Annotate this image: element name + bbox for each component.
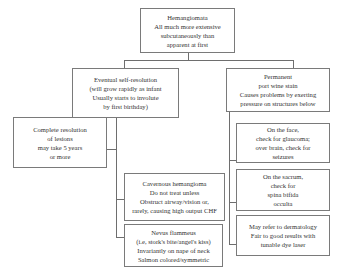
node-text: pressure on structures below [240, 99, 315, 108]
node-on-the-face: On the face, check for glaucoma; over br… [236, 123, 330, 163]
node-text: subcutaneously than [161, 31, 215, 40]
node-nevus-flammeus: Nevus flammeus (i.e, stork's bite/angel'… [124, 224, 223, 267]
node-text: Causes problems by exerting [240, 90, 316, 99]
connector-to-right-branch [293, 60, 294, 68]
node-refer-to-dermatology: May refer to dermatology Fair to good re… [236, 215, 330, 256]
node-text: Salmon colored/symmetric [138, 255, 209, 264]
node-text: by first birthday) [103, 102, 148, 111]
node-text: or more [50, 152, 71, 161]
node-text: apparent at first [167, 40, 208, 49]
node-hemangiomata: Hemangiomata All much more extensive sub… [140, 8, 235, 53]
node-on-the-sacrum: On the sacrum, check for spina bifida oc… [236, 169, 330, 211]
node-text: occulta [273, 199, 292, 208]
node-text: On the face, [267, 125, 299, 134]
node-text: Fair to good results with [251, 231, 315, 240]
node-text: spina bifida [268, 190, 299, 199]
connector-to-face [229, 160, 236, 161]
connector-to-nevus [116, 237, 124, 238]
node-text: (will grow rapidly as infant [89, 84, 161, 93]
node-text: May refer to dermatology [249, 222, 317, 231]
node-text: port wine stain [258, 81, 297, 90]
node-text: tunable dye laser [261, 240, 306, 249]
node-complete-resolution: Complete resolution of lesions may take … [13, 117, 107, 168]
node-text: Complete resolution [33, 125, 87, 134]
node-text: of lesions [47, 134, 72, 143]
connector-to-sacrum [229, 202, 236, 203]
node-text: Obstruct airway/vision or, [140, 197, 209, 206]
connector-root-down [188, 52, 189, 60]
node-permanent-port-wine-stain: Permanent port wine stain Causes problem… [226, 68, 330, 112]
connector-left-trunk [116, 117, 117, 237]
node-text: check for [271, 181, 296, 190]
node-text: Usually starts to involute [92, 93, 158, 102]
node-text: Invariantly on nape of neck [137, 246, 210, 255]
node-cavernous-hemangioma: Cavernous hemangioma Do not treat unless… [124, 173, 225, 221]
node-text: may take 5 years [38, 143, 83, 152]
node-text: Permanent [264, 72, 292, 81]
node-text: Cavernous hemangioma [143, 179, 207, 188]
connector-to-cavernous [116, 199, 124, 200]
connector-to-left-branch [124, 60, 125, 68]
node-text: rarely, causing high output CHF [132, 206, 217, 215]
node-text: over brain, check for [256, 143, 311, 152]
connector-root-split [124, 60, 294, 61]
node-eventual-self-resolution: Eventual self-resolution (will grow rapi… [72, 68, 179, 118]
hemangioma-flowchart: Hemangiomata All much more extensive sub… [0, 0, 342, 268]
node-text: All much more extensive [154, 22, 220, 31]
connector-right-trunk [229, 112, 230, 244]
node-text: (i.e, stork's bite/angel's kiss) [136, 237, 210, 246]
connector-to-dermatology [229, 244, 236, 245]
node-text: check for glaucoma; [256, 134, 310, 143]
node-text: seizures [272, 152, 293, 161]
node-text: On the sacrum, [263, 172, 303, 181]
node-text: Hemangiomata [167, 13, 207, 22]
node-text: Do not treat unless [150, 188, 200, 197]
node-text: Eventual self-resolution [94, 75, 157, 84]
node-text: Nevus flammeus [151, 228, 196, 237]
connector-to-complete-resolution [107, 149, 117, 150]
